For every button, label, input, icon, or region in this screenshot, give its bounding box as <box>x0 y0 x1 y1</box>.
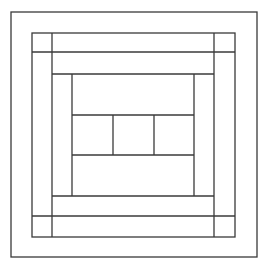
outer-frame <box>32 33 235 237</box>
quilt-block-diagram <box>0 0 267 264</box>
outer-border <box>11 12 257 257</box>
